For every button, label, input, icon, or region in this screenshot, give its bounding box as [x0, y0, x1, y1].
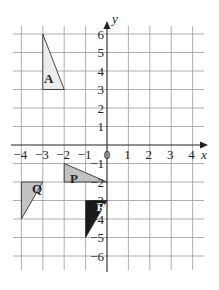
- y-tick-label: −1: [90, 156, 104, 171]
- y-axis-arrow-icon: [104, 21, 111, 29]
- y-tick-label: 5: [98, 45, 105, 60]
- y-tick-label: 6: [98, 27, 105, 42]
- y-tick-label: −2: [90, 175, 104, 190]
- x-tick-label: −4: [13, 147, 27, 162]
- y-tick-label: 3: [98, 82, 105, 97]
- triangle-label: P: [70, 171, 78, 186]
- y-tick-label: 4: [98, 64, 105, 79]
- x-tick-labels: −4−3−2−101234: [13, 147, 195, 162]
- triangle-q: Q: [21, 181, 42, 219]
- x-tick-label: −3: [35, 147, 49, 162]
- x-tick-label: 0: [104, 147, 111, 162]
- x-tick-label: −2: [56, 147, 70, 162]
- x-tick-label: 4: [188, 147, 195, 162]
- triangle-a: A: [43, 34, 64, 90]
- y-tick-label: −4: [90, 212, 104, 227]
- coordinate-plane: APQR x y −4−3−2−101234 654321−1−2−3−4−5−…: [0, 0, 219, 290]
- y-tick-label: −5: [90, 230, 104, 245]
- y-tick-label: 2: [98, 101, 105, 116]
- y-tick-label: −3: [90, 193, 104, 208]
- triangle-label: Q: [32, 181, 42, 196]
- x-tick-label: 3: [167, 147, 174, 162]
- x-axis-label: x: [200, 147, 207, 162]
- y-tick-label: −6: [90, 249, 104, 264]
- triangle-label: A: [44, 71, 54, 86]
- y-tick-label: 1: [98, 119, 105, 134]
- x-tick-label: 2: [146, 147, 153, 162]
- y-axis-label: y: [110, 11, 118, 26]
- x-tick-label: 1: [124, 147, 131, 162]
- axes: x y: [11, 11, 208, 272]
